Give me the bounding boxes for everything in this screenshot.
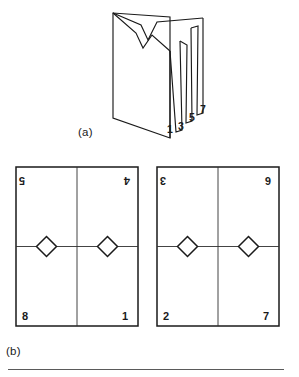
footer-rule bbox=[8, 369, 284, 370]
right-sheet-corner-bottom-left: 2 bbox=[163, 310, 169, 322]
figure-root: 1 3 5 7 (a) 5 4 8 1 bbox=[0, 0, 299, 377]
left-sheet-group: 5 4 8 1 bbox=[16, 167, 138, 326]
right-sheet-corner-top-left: 3 bbox=[160, 175, 166, 187]
caption-b: (b) bbox=[6, 345, 21, 357]
left-sheet-corner-bottom-right: 1 bbox=[122, 310, 128, 322]
right-sheet-corner-bottom-right: 7 bbox=[263, 310, 269, 322]
panel-b-unfolded-sheets: 5 4 8 1 3 6 2 7 bbox=[0, 0, 299, 377]
left-sheet-corner-bottom-left: 8 bbox=[22, 310, 28, 322]
left-sheet-diamond-1 bbox=[37, 237, 57, 257]
right-sheet-diamond-2 bbox=[239, 237, 259, 257]
left-sheet-corner-top-right: 4 bbox=[123, 175, 130, 187]
left-sheet-diamond-2 bbox=[98, 237, 118, 257]
right-sheet-diamond-1 bbox=[178, 237, 198, 257]
right-sheet-group: 3 6 2 7 bbox=[157, 167, 279, 326]
left-sheet-corner-top-left: 5 bbox=[19, 175, 25, 187]
right-sheet-corner-top-right: 6 bbox=[265, 175, 271, 187]
